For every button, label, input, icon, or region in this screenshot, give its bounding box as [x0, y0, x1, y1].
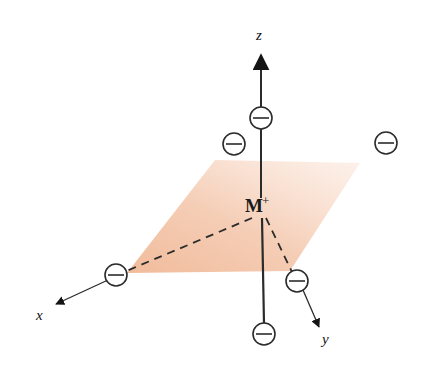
x-axis-arrow [56, 280, 108, 304]
ligand-back-right [375, 132, 397, 154]
metal-cation-charge: + [262, 193, 269, 208]
axis-label-z: z [255, 27, 262, 43]
ligand-y-front [286, 270, 308, 292]
axis-label-y: y [320, 331, 329, 347]
axis-label-x: x [35, 307, 43, 323]
ligand-z-top [250, 107, 272, 129]
ligand-z-bottom [253, 323, 275, 345]
ligand-back-left [223, 133, 245, 155]
y-axis-arrow [303, 290, 319, 327]
ligand-x-front [105, 264, 127, 286]
metal-cation-symbol: M [245, 195, 263, 216]
octahedral-field-figure: M + z x y [0, 0, 425, 373]
xy-plane [127, 160, 360, 273]
figure-canvas: M + z x y [0, 0, 425, 373]
